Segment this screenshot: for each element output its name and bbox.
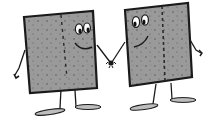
left-character-outer-hand — [14, 74, 19, 78]
right-character-pupil-left — [133, 21, 136, 26]
held-hands — [106, 60, 116, 68]
right-character-foot-left — [130, 102, 158, 111]
left-character-leg-right — [75, 90, 76, 107]
left-character-foot-right — [75, 105, 101, 110]
right-character-leg-left — [153, 84, 156, 104]
right-character-body — [125, 3, 192, 86]
left-character-inner-arm — [97, 45, 110, 62]
left-character-outer-arm — [15, 50, 25, 75]
right-character-pupil-right — [143, 20, 146, 25]
left-character-foot-left — [35, 107, 65, 116]
right-character-foot-right — [170, 98, 196, 103]
left-character-pupil-right — [87, 28, 90, 33]
left-character — [14, 11, 110, 117]
right-character — [112, 3, 202, 112]
illustration-canvas — [0, 0, 218, 124]
left-character-pupil-left — [78, 29, 81, 34]
right-character-leg-right — [171, 83, 172, 99]
right-character-inner-arm — [112, 42, 125, 62]
